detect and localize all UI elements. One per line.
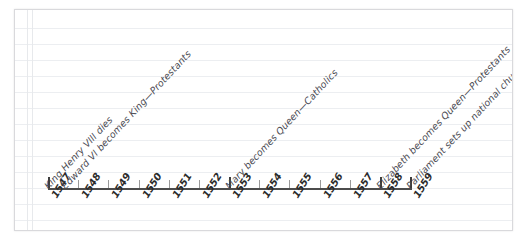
year-label-1548: 1548: [79, 171, 103, 200]
tick-1548: [78, 180, 79, 188]
tick-1555: [289, 180, 290, 188]
screenshot-root: 1547154815491550155115521553155415551556…: [0, 0, 528, 243]
event-label-5: Parliament sets up national church: [404, 60, 513, 191]
tick-1557: [350, 180, 351, 188]
tick-1550: [139, 180, 140, 188]
year-label-1552: 1552: [200, 171, 224, 200]
tick-1549: [108, 180, 109, 188]
year-label-1550: 1550: [140, 171, 164, 200]
year-label-1557: 1557: [351, 171, 375, 200]
tick-1556: [320, 180, 321, 188]
year-label-1551: 1551: [170, 171, 194, 200]
timeline-chart: 1547154815491550155115521553155415551556…: [15, 10, 512, 230]
year-label-1556: 1556: [321, 171, 345, 200]
event-label-2: Edward VI becomes King—Protestants: [59, 48, 193, 191]
event-label-4: Elizabeth becomes Queen—Protestants: [374, 44, 512, 191]
year-label-1549: 1549: [109, 171, 133, 200]
year-label-1554: 1554: [260, 171, 284, 200]
tick-1552: [199, 180, 200, 188]
year-label-1555: 1555: [290, 171, 314, 200]
event-label-3: Mary becomes Queen—Catholics: [223, 67, 340, 191]
notebook-paper: 1547154815491550155115521553155415551556…: [14, 9, 513, 231]
tick-1551: [169, 180, 170, 188]
tick-1554: [259, 180, 260, 188]
